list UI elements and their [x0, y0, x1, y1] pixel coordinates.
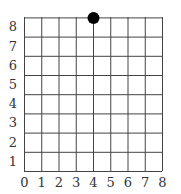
y-tick-label: 6 [9, 58, 17, 73]
y-tick-label: 3 [9, 115, 17, 130]
data-point-marker [88, 12, 100, 24]
y-tick-label: 7 [9, 39, 17, 54]
x-tick-label: 3 [72, 175, 80, 190]
x-tick-label: 1 [38, 175, 46, 190]
x-tick-label: 5 [107, 175, 115, 190]
y-axis-tick-labels: 12345678 [9, 19, 17, 168]
x-tick-label: 7 [141, 175, 149, 190]
coordinate-grid-chart: 012345678 12345678 [0, 0, 181, 194]
x-axis-tick-labels: 012345678 [20, 175, 166, 190]
x-tick-label: 4 [89, 175, 97, 190]
y-tick-label: 2 [9, 135, 17, 150]
x-tick-label: 2 [55, 175, 63, 190]
y-tick-label: 8 [9, 19, 17, 34]
y-tick-label: 1 [9, 154, 17, 169]
x-tick-label: 8 [158, 175, 166, 190]
y-tick-label: 5 [9, 77, 17, 92]
x-tick-label: 6 [124, 175, 132, 190]
y-tick-label: 4 [9, 96, 17, 111]
x-tick-label: 0 [20, 175, 28, 190]
grid-lines [24, 17, 163, 172]
data-points [88, 12, 100, 24]
